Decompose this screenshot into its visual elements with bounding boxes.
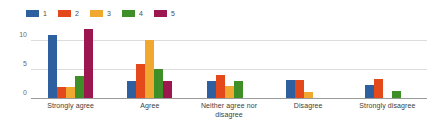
bar[interactable] [365, 85, 374, 99]
bar[interactable] [295, 80, 304, 99]
bar[interactable] [163, 81, 172, 99]
bar-set [269, 26, 348, 99]
bar-groups [31, 26, 427, 99]
legend-item-label: 5 [171, 10, 175, 17]
legend-swatch-icon [26, 10, 39, 17]
bar[interactable] [75, 76, 84, 99]
y-axis-tick-label: 10 [19, 30, 27, 37]
bar[interactable] [234, 81, 243, 99]
legend-item[interactable]: 1 [26, 10, 47, 17]
legend-swatch-icon [122, 10, 135, 17]
legend-item[interactable]: 5 [154, 10, 175, 17]
bar[interactable] [374, 79, 383, 99]
bar[interactable] [84, 29, 93, 99]
bar-set [110, 26, 189, 99]
chart-legend: 12345 [26, 7, 175, 19]
bar[interactable] [207, 81, 216, 99]
x-axis-tick-labels: Strongly agreeAgreeNeither agree nor dis… [31, 101, 427, 120]
bar-set [31, 26, 110, 99]
bar-set [348, 26, 427, 99]
bar[interactable] [286, 80, 295, 99]
legend-item[interactable]: 4 [122, 10, 143, 17]
x-axis-line [31, 98, 427, 99]
bar-set [189, 26, 268, 99]
bar-group [110, 26, 189, 99]
bar[interactable] [216, 75, 225, 99]
legend-item-label: 2 [75, 10, 79, 17]
legend-swatch-icon [90, 10, 103, 17]
bar[interactable] [136, 64, 145, 99]
legend-item-label: 3 [107, 10, 111, 17]
bar[interactable] [127, 81, 136, 99]
y-axis-tick-label: 0 [23, 89, 27, 96]
bar-group [269, 26, 348, 99]
bar-group [189, 26, 268, 99]
legend-item[interactable]: 2 [58, 10, 79, 17]
y-axis-tick-label: 5 [23, 59, 27, 66]
legend-item-label: 1 [43, 10, 47, 17]
bar[interactable] [154, 69, 163, 99]
x-axis-category-label: Strongly agree [31, 101, 110, 120]
bar[interactable] [48, 35, 57, 99]
bar-group [348, 26, 427, 99]
x-axis-category-label: Strongly disagree [348, 101, 427, 120]
x-axis-category-label: Neither agree nor disagree [189, 101, 268, 120]
legend-swatch-icon [154, 10, 167, 17]
x-axis-category-label: Disagree [269, 101, 348, 120]
bar[interactable] [145, 40, 154, 99]
legend-swatch-icon [58, 10, 71, 17]
x-axis-category-label: Agree [110, 101, 189, 120]
legend-item-label: 4 [139, 10, 143, 17]
bar-group [31, 26, 110, 99]
bar-chart: 12345 0510 Strongly agreeAgreeNeither ag… [0, 0, 433, 127]
plot-area: 0510 [31, 26, 427, 99]
legend-item[interactable]: 3 [90, 10, 111, 17]
